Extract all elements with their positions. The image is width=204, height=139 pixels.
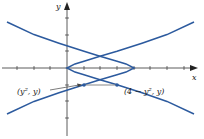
x-axis-label: x — [192, 73, 197, 82]
left-point — [82, 83, 86, 87]
x-axis-arrow-icon — [190, 65, 198, 71]
y-axis-label: y — [55, 2, 61, 11]
right-point — [115, 83, 119, 87]
figure: y x (y², y) (4 − y², y) — [0, 0, 204, 139]
y-axis-arrow-icon — [64, 2, 70, 10]
left-point-label: (y², y) — [17, 87, 41, 96]
right-point-label: (4 − y², y) — [124, 87, 164, 96]
